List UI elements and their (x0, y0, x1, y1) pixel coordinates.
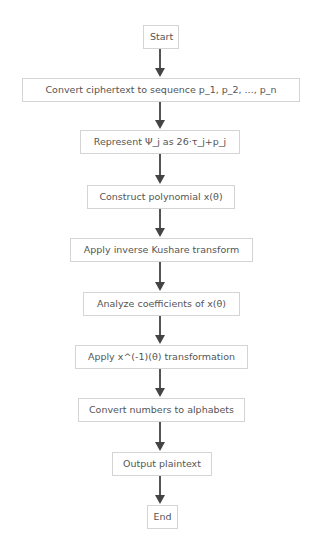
node-start: Start (143, 25, 179, 49)
node-inverse-kushare: Apply inverse Kushare transform (70, 238, 253, 262)
node-output-plaintext: Output plaintext (112, 452, 212, 476)
node-end: End (147, 505, 178, 529)
node-convert-ciphertext: Convert ciphertext to sequence p_1, p_2,… (22, 78, 300, 102)
cropped-caption-fragment (40, 0, 160, 4)
node-represent: Represent Ψ_j as 26·τ_j+p_j (80, 130, 240, 154)
node-convert-numbers: Convert numbers to alphabets (78, 398, 245, 422)
node-apply-inverse-x: Apply x^(-1)(θ) transformation (75, 345, 248, 369)
node-analyze-coefficients: Analyze coefficients of x(θ) (83, 292, 240, 316)
node-construct-polynomial: Construct polynomial x(θ) (87, 185, 235, 209)
